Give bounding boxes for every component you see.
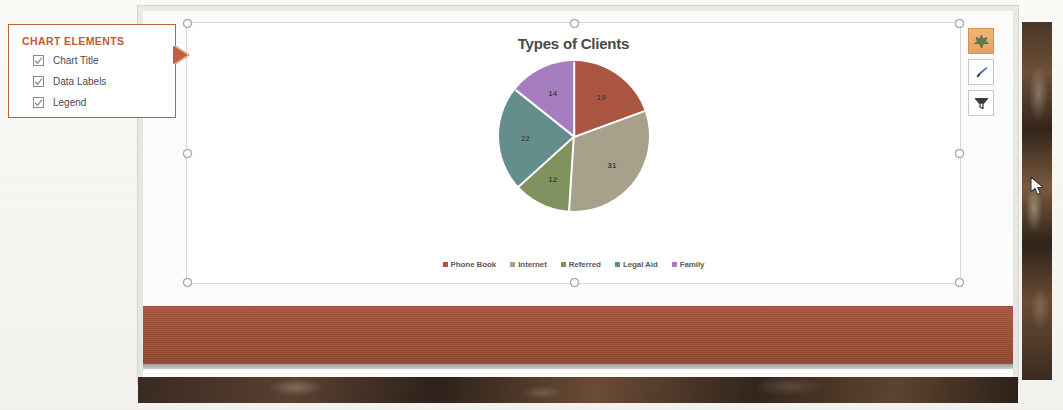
legend-swatch-icon bbox=[561, 262, 566, 267]
pie-data-label: 12 bbox=[548, 175, 557, 184]
chart-element-row-legend[interactable]: Legend bbox=[33, 97, 86, 108]
checkbox-legend[interactable] bbox=[33, 97, 44, 108]
chart-element-row-chart-title[interactable]: Chart Title bbox=[33, 55, 99, 66]
legend-swatch-icon bbox=[615, 262, 620, 267]
pie-data-label: 31 bbox=[608, 160, 617, 169]
chart-element-row-data-labels[interactable]: Data Labels bbox=[33, 76, 106, 87]
pie-data-label: 22 bbox=[521, 133, 530, 142]
chart-legend[interactable]: Phone BookInternetReferredLegal AidFamil… bbox=[187, 260, 960, 269]
decorative-brown-band bbox=[143, 306, 1013, 364]
pie-slice-divider bbox=[517, 136, 574, 188]
pie-slice-divider bbox=[573, 62, 575, 137]
resize-handle-bottom-left[interactable] bbox=[183, 278, 192, 287]
resize-handle-bottom-center[interactable] bbox=[570, 278, 579, 287]
band-grain bbox=[143, 306, 1013, 364]
legend-item[interactable]: Referred bbox=[561, 260, 601, 269]
funnel-icon bbox=[974, 96, 989, 111]
chart-filters-button[interactable] bbox=[968, 90, 994, 116]
chart-element-label: Chart Title bbox=[53, 55, 99, 66]
callout-pointer bbox=[175, 46, 189, 64]
pie-chart[interactable]: 1931122214 bbox=[499, 61, 649, 211]
chart-elements-button[interactable] bbox=[968, 28, 994, 54]
legend-swatch-icon bbox=[443, 262, 448, 267]
pie-data-label: 19 bbox=[597, 92, 606, 101]
check-icon bbox=[34, 77, 43, 87]
checkbox-chart-title[interactable] bbox=[33, 55, 44, 66]
resize-handle-bottom-right[interactable] bbox=[955, 278, 964, 287]
bottom-marble-strip bbox=[138, 377, 1018, 403]
legend-item[interactable]: Legal Aid bbox=[615, 260, 658, 269]
legend-swatch-icon bbox=[510, 262, 515, 267]
chart-styles-button[interactable] bbox=[968, 59, 994, 85]
chart-element-label: Legend bbox=[53, 97, 86, 108]
legend-label: Legal Aid bbox=[623, 260, 658, 269]
legend-label: Phone Book bbox=[451, 260, 497, 269]
legend-label: Family bbox=[680, 260, 705, 269]
resize-handle-top-left[interactable] bbox=[183, 19, 192, 28]
band-shadow bbox=[143, 364, 1013, 369]
legend-item[interactable]: Internet bbox=[510, 260, 547, 269]
pie-slice-divider bbox=[573, 110, 644, 137]
legend-item[interactable]: Family bbox=[672, 260, 705, 269]
pie-plot-area: 1931122214 bbox=[187, 61, 960, 241]
check-icon bbox=[34, 56, 43, 66]
chart-object[interactable]: Types of Clients 1931122214 Phone BookIn… bbox=[186, 22, 961, 284]
pie-slice-divider bbox=[514, 89, 574, 137]
mouse-cursor bbox=[1030, 176, 1046, 202]
checkbox-data-labels[interactable] bbox=[33, 76, 44, 87]
legend-item[interactable]: Phone Book bbox=[443, 260, 497, 269]
check-icon bbox=[34, 98, 43, 108]
chart-tools[interactable] bbox=[968, 28, 994, 116]
legend-swatch-icon bbox=[672, 262, 677, 267]
chart-elements-callout[interactable]: CHART ELEMENTS Chart TitleData LabelsLeg… bbox=[8, 24, 176, 118]
resize-handle-top-center[interactable] bbox=[570, 19, 579, 28]
callout-title: CHART ELEMENTS bbox=[22, 35, 124, 47]
resize-handle-top-right[interactable] bbox=[955, 19, 964, 28]
pie-slice-divider bbox=[568, 137, 574, 212]
pie-data-label: 14 bbox=[548, 88, 557, 97]
paintbrush-icon bbox=[974, 65, 989, 80]
chart-title[interactable]: Types of Clients bbox=[187, 35, 960, 52]
legend-label: Referred bbox=[569, 260, 601, 269]
plus-icon bbox=[974, 34, 989, 49]
legend-label: Internet bbox=[518, 260, 547, 269]
document-page: through with this. Then think aboutshoul… bbox=[0, 0, 1063, 410]
marble-mottle bbox=[138, 377, 1018, 403]
chart-element-label: Data Labels bbox=[53, 76, 106, 87]
